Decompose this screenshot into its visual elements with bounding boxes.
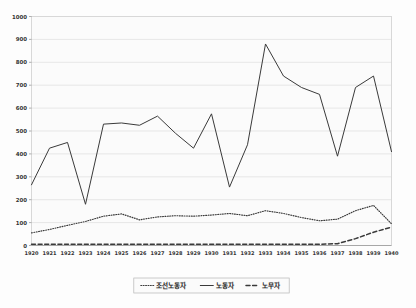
x-tick-label: 1926 <box>133 250 147 256</box>
x-tick-label: 1927 <box>151 250 165 256</box>
y-tick-label: 700 <box>16 82 28 88</box>
x-tick-label: 1921 <box>43 250 57 256</box>
x-tick-label: 1933 <box>259 250 273 256</box>
y-tick-label: 300 <box>16 174 28 180</box>
y-tick-label: 600 <box>16 105 28 111</box>
x-tick-label: 1936 <box>313 250 327 256</box>
x-tick-label: 1939 <box>367 250 381 256</box>
chart-canvas: 01002003004005006007008009001000 1920192… <box>0 0 416 308</box>
x-tick-label: 1931 <box>223 250 237 256</box>
x-tick-label: 1934 <box>277 250 291 256</box>
legend-label: 노동자 <box>216 281 235 290</box>
y-tick-label: 200 <box>16 197 28 203</box>
line-chart: 01002003004005006007008009001000 1920192… <box>0 0 416 308</box>
x-tick-label: 1930 <box>205 250 219 256</box>
y-tick-label: 800 <box>16 59 28 65</box>
legend-label: 조선노동자 <box>156 281 187 290</box>
x-tick-label: 1928 <box>169 250 183 256</box>
y-tick-label: 100 <box>16 220 28 226</box>
y-tick-label: 900 <box>16 36 28 42</box>
x-tick-label: 1924 <box>97 250 111 256</box>
x-tick-label: 1935 <box>295 250 309 256</box>
x-tick-label: 1922 <box>61 250 75 256</box>
x-tick-label: 1925 <box>115 250 129 256</box>
y-tick-label: 1000 <box>12 14 27 20</box>
x-tick-label: 1929 <box>187 250 201 256</box>
x-tick-label: 1920 <box>25 250 39 256</box>
y-tick-label: 500 <box>16 128 28 134</box>
x-tick-label: 1937 <box>331 250 345 256</box>
y-tick-label: 400 <box>16 151 28 157</box>
legend-label: 노무자 <box>262 281 281 290</box>
x-tick-label: 1932 <box>241 250 255 256</box>
x-tick-label: 1940 <box>385 250 399 256</box>
x-axis-tick-labels: 1920192119221923192419251926192719281929… <box>25 250 399 256</box>
x-tick-label: 1938 <box>349 250 363 256</box>
chart-legend: 조선노동자노동자노무자 <box>134 278 289 293</box>
x-tick-label: 1923 <box>79 250 93 256</box>
y-axis-tick-labels: 01002003004005006007008009001000 <box>12 14 27 249</box>
y-tick-label: 0 <box>23 243 27 249</box>
